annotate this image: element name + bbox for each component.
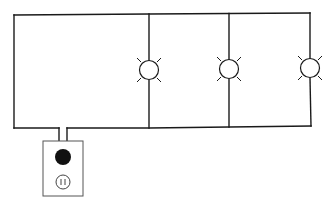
wire-bottom-right [67, 126, 311, 128]
plug-icon [55, 149, 71, 165]
light-bulb-icon [298, 56, 322, 80]
branch-3-bottom [310, 78, 311, 126]
light-bulb-icon [137, 58, 161, 82]
outlet-icon [43, 141, 83, 196]
light-bulb-icon [217, 57, 241, 81]
wire-top [14, 13, 310, 15]
socket-icon [56, 175, 70, 189]
parallel-circuit-diagram [0, 0, 329, 209]
